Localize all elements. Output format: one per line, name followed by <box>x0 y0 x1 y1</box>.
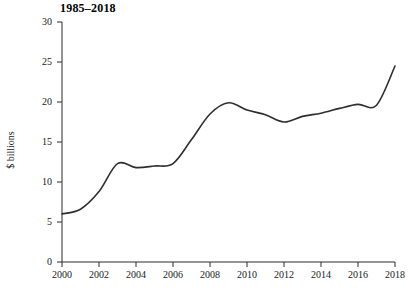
x-tick-label: 2018 <box>385 269 405 280</box>
line-chart-plot: $ billions 0 5 10 15 20 25 30 <box>0 0 408 291</box>
y-axis-ticks: 0 5 10 15 20 25 30 <box>42 16 62 267</box>
y-tick-label: 30 <box>42 16 52 27</box>
y-tick-label: 5 <box>47 216 52 227</box>
y-tick-label: 20 <box>42 96 52 107</box>
x-tick-label: 2010 <box>237 269 257 280</box>
x-tick-label: 2000 <box>52 269 72 280</box>
y-axis-title: $ billions <box>5 131 16 169</box>
x-tick-label: 2008 <box>200 269 220 280</box>
x-tick-label: 2012 <box>274 269 294 280</box>
chart-figure: 1985–2018 $ billions 0 5 10 15 20 25 30 <box>0 0 408 291</box>
y-tick-label: 15 <box>42 136 52 147</box>
data-series-line <box>62 66 395 214</box>
x-tick-label: 2004 <box>126 269 146 280</box>
x-tick-label: 2006 <box>163 269 183 280</box>
x-tick-label: 2016 <box>348 269 368 280</box>
x-axis-ticks: 2000 2002 2004 2006 2008 2010 2012 2014 … <box>52 262 405 280</box>
x-tick-label: 2014 <box>311 269 331 280</box>
y-tick-label: 0 <box>47 256 52 267</box>
x-tick-label: 2002 <box>89 269 109 280</box>
y-tick-label: 25 <box>42 56 52 67</box>
y-tick-label: 10 <box>42 176 52 187</box>
